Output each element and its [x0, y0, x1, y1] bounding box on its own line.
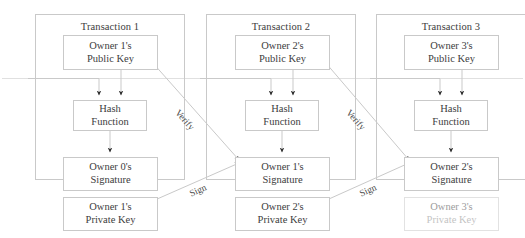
- private-key-label-line2: Private Key: [86, 214, 136, 227]
- transaction-title: Transaction 1: [36, 21, 184, 32]
- signature-label-line1: Owner 0's: [89, 161, 131, 174]
- sign-label-2: Sign: [358, 182, 378, 198]
- public-key-box-1[interactable]: Owner 1's Public Key: [63, 35, 158, 70]
- public-key-label-line2: Public Key: [428, 53, 475, 66]
- private-key-label-line2: Private Key: [427, 214, 477, 227]
- private-key-label-line2: Private Key: [258, 214, 308, 227]
- diagram-canvas: Transaction 1 Owner 1's Public Key Hash …: [0, 0, 525, 238]
- private-key-box-3[interactable]: Owner 3's Private Key: [404, 197, 499, 231]
- sign-label-1: Sign: [188, 182, 208, 198]
- hash-function-box-3[interactable]: Hash Function: [414, 100, 488, 131]
- transaction-title: Transaction 2: [207, 21, 355, 32]
- public-key-label-line2: Public Key: [259, 53, 306, 66]
- public-key-label-line2: Public Key: [87, 53, 134, 66]
- signature-label-line2: Signature: [262, 174, 302, 187]
- scan-artifact-top: [0, 0, 525, 7]
- signature-label-line1: Owner 1's: [261, 161, 303, 174]
- private-key-label-line1: Owner 3's: [430, 201, 472, 214]
- signature-label-line2: Signature: [431, 174, 471, 187]
- private-key-box-1[interactable]: Owner 1's Private Key: [63, 197, 158, 231]
- hash-function-box-1[interactable]: Hash Function: [73, 100, 147, 131]
- public-key-box-3[interactable]: Owner 3's Public Key: [404, 35, 499, 70]
- private-key-box-2[interactable]: Owner 2's Private Key: [235, 197, 330, 231]
- private-key-label-line1: Owner 1's: [89, 201, 131, 214]
- hash-function-label-line2: Function: [263, 116, 300, 129]
- hash-function-label-line1: Hash: [99, 103, 121, 116]
- hash-function-label-line2: Function: [432, 116, 469, 129]
- public-key-label-line1: Owner 1's: [89, 40, 131, 53]
- signature-label-line2: Signature: [90, 174, 130, 187]
- hash-function-label-line1: Hash: [440, 103, 462, 116]
- hash-function-box-2[interactable]: Hash Function: [245, 100, 319, 131]
- signature-box-1[interactable]: Owner 0's Signature: [63, 157, 158, 191]
- hash-function-label-line2: Function: [91, 116, 128, 129]
- signature-box-3[interactable]: Owner 2's Signature: [404, 157, 499, 191]
- public-key-label-line1: Owner 2's: [261, 40, 303, 53]
- public-key-box-2[interactable]: Owner 2's Public Key: [235, 35, 330, 70]
- transaction-title: Transaction 3: [377, 21, 525, 32]
- signature-label-line1: Owner 2's: [430, 161, 472, 174]
- public-key-label-line1: Owner 3's: [430, 40, 472, 53]
- signature-box-2[interactable]: Owner 1's Signature: [235, 157, 330, 191]
- hash-function-label-line1: Hash: [271, 103, 293, 116]
- private-key-label-line1: Owner 2's: [261, 201, 303, 214]
